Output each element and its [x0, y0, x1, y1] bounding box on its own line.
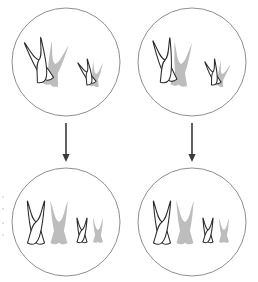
parent-cell-left [12, 8, 120, 116]
daughter-cell-left-membrane [12, 168, 120, 276]
arrow-left-head-icon [62, 154, 69, 162]
arrow-right-head-icon [188, 154, 195, 162]
parent-cell-right [138, 8, 246, 116]
margin-artifact-2 [2, 222, 4, 224]
margin-artifact-1 [2, 208, 4, 210]
daughter-cell-left [12, 168, 120, 276]
chromosome-diagram-canvas [0, 0, 258, 282]
cell-division-diagram [0, 0, 258, 282]
arrow-left [62, 123, 69, 162]
parent-cell-right-membrane [138, 8, 246, 116]
arrow-right [188, 123, 195, 162]
daughter-cell-right [138, 168, 246, 276]
margin-artifact-3 [2, 234, 4, 236]
daughter-cell-right-membrane [138, 168, 246, 276]
margin-artifact-0 [2, 196, 4, 198]
parent-cell-left-membrane [12, 8, 120, 116]
